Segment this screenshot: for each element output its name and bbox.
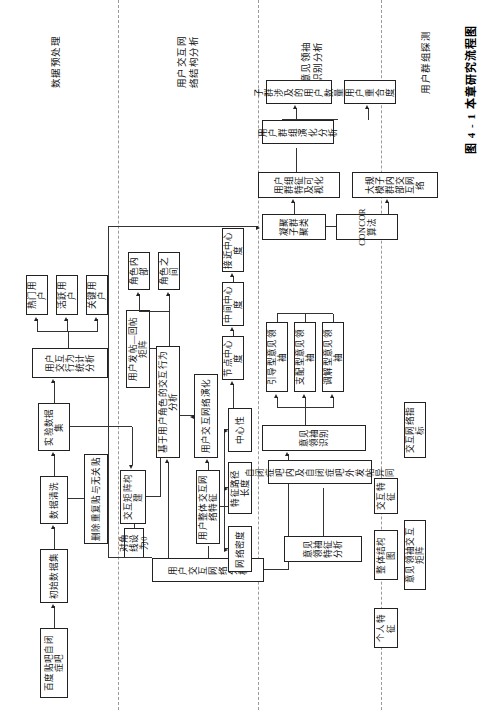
- node-leader-matrix[interactable]: 意见领袖交互矩阵: [404, 520, 426, 590]
- arrow-to-node-centrality: [230, 381, 234, 385]
- lane-separator-3: [381, 0, 382, 710]
- node-active-user[interactable]: 活跃用户: [56, 275, 78, 315]
- node-mediator-leader[interactable]: 调解型意见领袖: [322, 322, 344, 392]
- lane-title-network: 用户交互网 络结构分析: [176, 14, 200, 110]
- node-role-between[interactable]: 角色之间: [158, 252, 180, 290]
- arrow-evo-to-count: [293, 105, 297, 109]
- node-concor[interactable]: CONCOR算法: [336, 214, 398, 240]
- conn-exp-to-stats: [54, 381, 55, 403]
- node-experiment-dataset[interactable]: 实验数据集: [38, 403, 70, 451]
- lane-title-preprocess: 数据预处理: [50, 14, 62, 110]
- node-betweenness[interactable]: 中间中心度: [222, 282, 244, 326]
- conn-netanalysis-to-role: [168, 462, 169, 558]
- node-leader-identify[interactable]: 意见领袖识别: [262, 425, 366, 451]
- arrow-to-key-user: [94, 317, 98, 321]
- node-large-subgroup-net[interactable]: 大规模子群内部交互网络: [352, 172, 438, 198]
- arrow-exp-to-stats: [51, 379, 55, 383]
- conn-top-rail-to-group: [108, 227, 109, 558]
- node-hot-user[interactable]: 热门用户: [26, 275, 48, 315]
- conn-lane2-to-lane3: [264, 569, 288, 570]
- flowchart-canvas: 数据预处理 用户交互网 络结构分析 意见领袖 识别分析 用户群组探测 百度贴吧自…: [0, 0, 490, 710]
- arrow-to-closeness: [230, 273, 234, 277]
- conn-to-dominant: [305, 397, 306, 408]
- node-subgroup-user-count[interactable]: 子群涉及的用户数量: [266, 80, 332, 104]
- conn-source-to-raw: [54, 606, 55, 628]
- node-net-density[interactable]: 网络密度: [228, 526, 252, 572]
- arrow-to-role-between: [166, 292, 170, 296]
- conn-mediator-right: [333, 314, 334, 322]
- node-inside-outside-post[interactable]: 自闭症吧内及自闭症吧外发帖异同: [268, 460, 372, 484]
- node-leader-feature[interactable]: 意见领袖特征分析: [284, 536, 362, 562]
- node-source-tieba[interactable]: 百度贴吧自闭症吧: [40, 628, 68, 698]
- node-role-inner[interactable]: 角色内部: [128, 252, 150, 290]
- lane-separator-2: [258, 0, 259, 710]
- node-closeness[interactable]: 接近中心度: [222, 228, 244, 272]
- node-centrality[interactable]: 中心性: [228, 408, 252, 452]
- conn-to-mediator: [333, 397, 334, 408]
- node-post-reply-matrix[interactable]: 用户发帖—回帖矩阵: [126, 310, 150, 388]
- conn-to-guiding: [277, 397, 278, 408]
- arrow-clean-to-exp: [51, 452, 55, 456]
- node-key-user[interactable]: 关键用户: [86, 275, 108, 315]
- conn-top-rail-down: [108, 226, 258, 227]
- arrow-to-density: [224, 548, 228, 552]
- node-net-index[interactable]: 交互网络指标: [404, 402, 426, 458]
- node-role-behavior[interactable]: 基于用户角色的交互行为分析: [156, 346, 180, 458]
- conn-to-role-between: [169, 294, 170, 312]
- conn-concor-to-cluster: [326, 226, 336, 227]
- node-overall-structure[interactable]: 整体结构图: [374, 530, 398, 580]
- node-dominant-leader[interactable]: 支配型意见领袖: [294, 322, 316, 392]
- node-diagonal-zero[interactable]: 对角线设为0: [124, 528, 144, 558]
- conn-feature-to-inout: [323, 488, 324, 536]
- node-node-centrality[interactable]: 节点中心度: [222, 336, 244, 380]
- arrow-to-active-user: [64, 317, 68, 321]
- node-guiding-leader[interactable]: 引导型意见领袖: [266, 322, 288, 392]
- lane-title-group: 用户群组探测: [420, 14, 432, 110]
- conn-centrality-out: [233, 384, 234, 408]
- conn-leader-out: [305, 408, 306, 425]
- conn-cluster-to-vis: [294, 202, 295, 214]
- arrow-evo-to-overlap: [365, 105, 369, 109]
- conn-vis-to-evolution: [296, 148, 297, 172]
- conn-remove-to-clean: [68, 498, 84, 499]
- arrow-to-path: [224, 487, 228, 491]
- arrow-raw-to-clean: [51, 525, 55, 529]
- conn-netanalysis-to-overall: [208, 546, 209, 558]
- node-overall-net-feature[interactable]: 用户整体交互网络特征: [196, 470, 220, 544]
- arrow-to-dominant: [302, 394, 306, 398]
- node-group-evolution[interactable]: 用户群组演化分析: [262, 120, 334, 144]
- conn-role-bus: [139, 311, 169, 312]
- conn-stats-out: [68, 332, 69, 348]
- arrow-overall-to-evo: [205, 459, 209, 463]
- arrow-exp-to-matrix: [129, 465, 133, 469]
- arrow-cluster-to-vis: [291, 199, 295, 203]
- node-matrix-build[interactable]: 交互矩阵构建: [120, 470, 146, 524]
- conn-evo-to-overlap: [368, 108, 369, 120]
- conn-diag-to-matrix: [134, 524, 135, 528]
- conn-top-rail-left-down: [108, 557, 152, 558]
- conn-clean-to-exp: [54, 454, 55, 476]
- node-behavior-stats[interactable]: 用户交互行为统计分析: [32, 348, 108, 378]
- node-data-cleaning[interactable]: 数据清洗: [40, 476, 68, 524]
- conn-exp-down-left: [132, 427, 133, 465]
- node-remove-duplicate[interactable]: 删除重复贴与无关贴: [84, 454, 108, 544]
- conn-evo-to-count: [296, 108, 297, 120]
- node-personal-feature[interactable]: 个人特征: [374, 608, 398, 648]
- conn-overall-to-evo: [208, 462, 209, 470]
- conn-evolution-bus: [282, 119, 338, 120]
- node-cohesive-cluster[interactable]: 凝聚子群聚类: [262, 214, 326, 240]
- arrow-source-to-raw: [51, 604, 55, 608]
- node-net-evolution[interactable]: 用户交互网络演化: [194, 374, 218, 458]
- arrow-rail-to-cluster: [256, 226, 260, 230]
- node-group-feature-vis[interactable]: 用户群组特征及可视化: [258, 172, 340, 198]
- node-raw-dataset[interactable]: 初始数据集: [40, 549, 68, 603]
- arrow-to-betweenness: [230, 327, 234, 331]
- node-interaction-feature[interactable]: 交互特征: [374, 478, 398, 514]
- conn-dominant-right: [305, 314, 306, 322]
- node-user-overlap[interactable]: 用户重合度: [344, 80, 396, 104]
- conn-role-out: [169, 312, 170, 346]
- conn-to-large-subgroup: [388, 202, 389, 214]
- arrow-to-guiding: [274, 394, 278, 398]
- conn-guiding-right: [277, 314, 278, 322]
- arrow-to-role-behavior: [165, 459, 169, 463]
